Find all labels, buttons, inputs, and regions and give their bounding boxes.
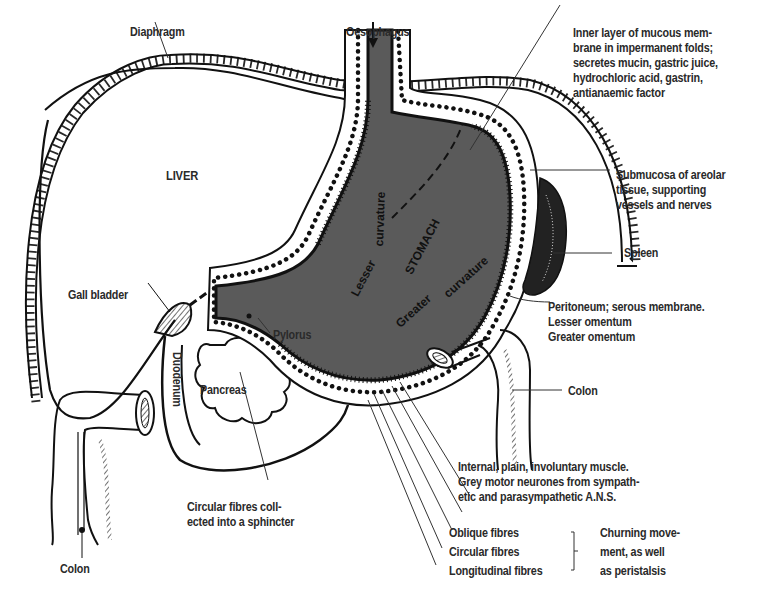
label-mucous-membrane: Inner layer of mucous mem- brane in impe… <box>573 26 718 101</box>
label-oesophagus: Oesophagus <box>346 25 409 40</box>
label-pylorus: Pylorus <box>273 328 311 343</box>
label-muscle: Internal, plain, involuntary muscle. Gre… <box>458 460 639 505</box>
label-spleen: Spleen <box>624 246 658 261</box>
label-churning: Churning move- ment, as well as peristal… <box>600 524 680 581</box>
label-gall-bladder: Gall bladder <box>68 288 128 303</box>
label-lesser-curvature: curvature <box>372 191 388 246</box>
label-submucosa: Submucosa of areolar tissue, supporting … <box>616 168 725 213</box>
label-sphincter: Circular fibres coll- ected into a sphin… <box>187 500 294 530</box>
label-liver: LIVER <box>166 168 198 183</box>
label-colon-left: Colon <box>60 562 90 577</box>
label-colon-right: Colon <box>568 384 598 399</box>
label-diaphragm: Diaphragm <box>130 25 185 40</box>
liver-outline-left <box>40 120 175 418</box>
label-peritoneum: Peritoneum; serous membrane. Lesser omen… <box>548 300 704 345</box>
label-fibres: Oblique fibres Circular fibres Longitudi… <box>449 524 542 581</box>
label-duodenum: Duodenum <box>169 352 184 407</box>
label-pancreas: Pancreas <box>200 383 246 398</box>
